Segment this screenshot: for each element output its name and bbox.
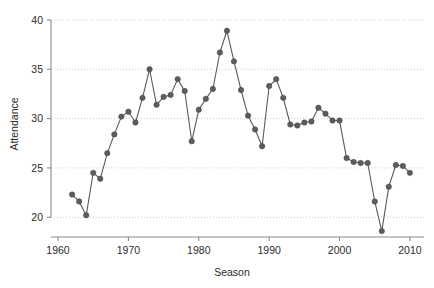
data-point	[266, 83, 271, 88]
data-point	[119, 114, 124, 119]
data-point	[91, 170, 96, 175]
data-point	[196, 107, 201, 112]
data-point	[344, 155, 349, 160]
y-axis: 2025303540	[31, 14, 51, 223]
x-axis-title: Season	[214, 266, 250, 278]
data-point	[365, 160, 370, 165]
data-point	[302, 120, 307, 125]
data-point	[224, 28, 229, 33]
data-point	[245, 113, 250, 118]
y-tick-label: 35	[31, 63, 43, 75]
y-tick-label: 40	[31, 14, 43, 26]
data-point	[126, 109, 131, 114]
data-point	[76, 199, 81, 204]
data-point	[189, 139, 194, 144]
data-point	[105, 150, 110, 155]
data-point	[400, 163, 405, 168]
y-tick-label: 25	[31, 162, 43, 174]
x-tick-group: 196019701980199020002010	[46, 237, 421, 256]
data-point	[175, 76, 180, 81]
data-point	[281, 95, 286, 100]
data-point	[372, 199, 377, 204]
data-point	[140, 95, 145, 100]
data-point	[203, 96, 208, 101]
data-point	[161, 94, 166, 99]
data-point	[147, 67, 152, 72]
data-point	[309, 119, 314, 124]
data-point	[238, 87, 243, 92]
data-point	[337, 118, 342, 123]
data-point	[69, 192, 74, 197]
data-point	[210, 86, 215, 91]
x-tick-label: 1990	[257, 244, 281, 256]
x-tick-label: 1960	[46, 244, 70, 256]
data-point	[274, 76, 279, 81]
data-point	[288, 122, 293, 127]
attendance-series-line	[72, 31, 410, 231]
x-axis: 196019701980199020002010	[46, 237, 424, 256]
data-point	[83, 213, 88, 218]
x-tick-label: 1970	[117, 244, 141, 256]
data-point	[98, 176, 103, 181]
y-axis-title: Attendance	[8, 97, 20, 150]
data-point	[386, 184, 391, 189]
y-tick-group: 2025303540	[31, 14, 51, 223]
data-point	[393, 162, 398, 167]
data-point	[323, 111, 328, 116]
y-tick-label: 20	[31, 211, 43, 223]
x-tick-label: 2010	[398, 244, 422, 256]
data-point	[133, 120, 138, 125]
y-tick-label: 30	[31, 112, 43, 124]
x-tick-label: 1980	[187, 244, 211, 256]
data-point	[379, 228, 384, 233]
data-point	[259, 144, 264, 149]
data-point	[168, 92, 173, 97]
data-point	[217, 50, 222, 55]
x-tick-label: 2000	[328, 244, 352, 256]
data-point	[112, 132, 117, 137]
data-point	[252, 127, 257, 132]
gridlines	[51, 20, 424, 217]
attendance-series-markers	[69, 28, 412, 234]
data-point	[351, 159, 356, 164]
attendance-line-chart: 2025303540 196019701980199020002010 Seas…	[0, 0, 434, 288]
data-series-group	[69, 28, 412, 234]
data-point	[154, 102, 159, 107]
data-point	[316, 105, 321, 110]
data-point	[330, 118, 335, 123]
data-point	[231, 59, 236, 64]
data-point	[358, 160, 363, 165]
data-point	[295, 123, 300, 128]
data-point	[407, 170, 412, 175]
chart-container: 2025303540 196019701980199020002010 Seas…	[0, 0, 434, 288]
data-point	[182, 88, 187, 93]
